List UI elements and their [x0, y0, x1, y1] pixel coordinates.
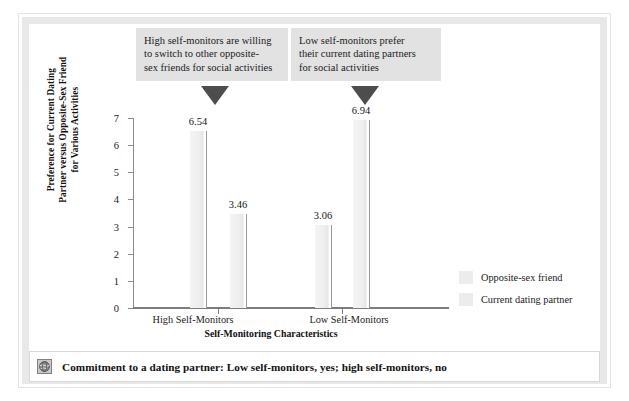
y-axis-tick-label-6: 6 — [114, 140, 119, 151]
legend-label-opposite-sex-friend: Opposite-sex friend — [481, 272, 563, 283]
callout-low-line-2: their current dating partners — [299, 47, 433, 60]
callout-high-line-1: High self-monitors are willing — [144, 34, 280, 47]
x-axis-line — [133, 307, 449, 309]
y-axis-tick-3: 3 — [128, 227, 133, 228]
y-axis-tick-label-5: 5 — [114, 167, 119, 178]
y-axis-tick-label-7: 7 — [114, 113, 119, 124]
y-axis-tick-label-3: 3 — [114, 221, 119, 232]
legend-swatch-current-dating-partner — [459, 293, 473, 306]
callout-high-arrow-icon — [201, 86, 229, 105]
y-axis-tick-2: 2 — [128, 254, 133, 255]
caption-bar: Commitment to a dating partner: Low self… — [29, 351, 600, 382]
category-label-high-self-monitors: High Self-Monitors — [153, 314, 234, 325]
bar-value-label-3-06: 3.06 — [314, 210, 332, 221]
y-axis-title: Preference for Current Dating Partner ve… — [46, 35, 81, 225]
legend-item-opposite-sex-friend: Opposite-sex friend — [459, 266, 573, 288]
caption-text: Commitment to a dating partner: Low self… — [62, 361, 447, 373]
legend-swatch-opposite-sex-friend — [459, 271, 473, 284]
x-axis-title: Self-Monitoring Characteristics — [204, 328, 337, 339]
category-label-low-self-monitors: Low Self-Monitors — [309, 314, 388, 325]
bar-value-label-6-94: 6.94 — [352, 105, 370, 116]
callout-low-line-3: for social activities — [299, 61, 433, 74]
bar-low-self-monitors-current-dating-partner — [353, 120, 370, 308]
y-axis-line — [133, 118, 134, 308]
callout-low-self-monitors: Low self-monitors prefer their current d… — [291, 28, 441, 81]
y-axis-tick-label-2: 2 — [114, 248, 119, 259]
y-axis-title-line-1: Preference for Current Dating — [46, 35, 58, 225]
y-axis-title-line-2: Partner versus Opposite-Sex Friend — [58, 35, 70, 225]
globe-icon — [37, 359, 52, 374]
chart-panel: High self-monitors are willing to switch… — [29, 24, 600, 342]
callout-low-line-1: Low self-monitors prefer — [299, 34, 433, 47]
bar-value-label-6-54: 6.54 — [189, 116, 207, 127]
y-axis-tick-label-1: 1 — [114, 275, 119, 286]
y-axis-tick-4: 4 — [128, 199, 133, 200]
chart-legend: Opposite-sex friend Current dating partn… — [459, 266, 573, 310]
plot-area: 76543210 6.543.463.066.94 — [133, 118, 449, 308]
y-axis-tick-1: 1 — [128, 281, 133, 282]
callout-high-line-2: to switch to other opposite- — [144, 47, 280, 60]
y-axis-tick-5: 5 — [128, 172, 133, 173]
legend-item-current-dating-partner: Current dating partner — [459, 288, 573, 310]
y-axis-tick-label-4: 4 — [114, 194, 119, 205]
y-axis-tick-7: 7 — [128, 118, 133, 119]
y-axis-title-line-3: for Various Activities — [70, 35, 82, 225]
y-axis-tick-6: 6 — [128, 145, 133, 146]
callout-low-arrow-icon — [351, 86, 379, 105]
callout-high-line-3: sex friends for social activities — [144, 61, 280, 74]
bar-low-self-monitors-opposite-sex-friend — [315, 225, 332, 308]
bar-value-label-3-46: 3.46 — [229, 199, 247, 210]
legend-label-current-dating-partner: Current dating partner — [481, 294, 573, 305]
y-axis-tick-label-0: 0 — [114, 303, 119, 314]
figure-root: High self-monitors are willing to switch… — [0, 0, 629, 401]
y-axis-tick-0: 0 — [128, 308, 133, 309]
bar-high-self-monitors-current-dating-partner — [230, 214, 247, 308]
bar-high-self-monitors-opposite-sex-friend — [190, 131, 207, 309]
callout-high-self-monitors: High self-monitors are willing to switch… — [136, 28, 288, 81]
